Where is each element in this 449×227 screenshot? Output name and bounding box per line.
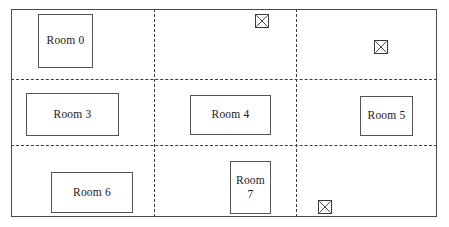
divider-horizontal-lower — [11, 145, 437, 146]
crossed-box-marker — [374, 40, 388, 54]
room-label: Room7 — [236, 174, 265, 201]
room-label-line: Room — [236, 174, 265, 186]
room-label: Room 3 — [54, 108, 92, 122]
room-label-line: 7 — [248, 188, 254, 200]
room-label: Room 4 — [212, 108, 250, 122]
divider-horizontal-upper — [11, 79, 437, 80]
cross-icon — [256, 15, 268, 27]
floor-plan-diagram: Room 0Room 3Room 4Room 5Room 6Room7 — [0, 0, 449, 227]
cross-icon — [319, 201, 331, 213]
room-box-3: Room 3 — [26, 93, 119, 136]
room-box-0: Room 0 — [38, 14, 93, 68]
room-box-5: Room 5 — [360, 96, 413, 136]
cross-icon — [375, 41, 387, 53]
divider-vertical-right — [296, 9, 297, 217]
crossed-box-marker — [318, 200, 332, 214]
room-box-7: Room7 — [230, 161, 271, 214]
crossed-box-marker — [255, 14, 269, 28]
room-box-6: Room 6 — [51, 172, 133, 213]
room-label: Room 5 — [368, 109, 406, 123]
room-box-4: Room 4 — [190, 95, 271, 135]
room-label: Room 0 — [47, 34, 85, 48]
divider-vertical-left — [154, 9, 155, 217]
room-label: Room 6 — [73, 186, 111, 200]
